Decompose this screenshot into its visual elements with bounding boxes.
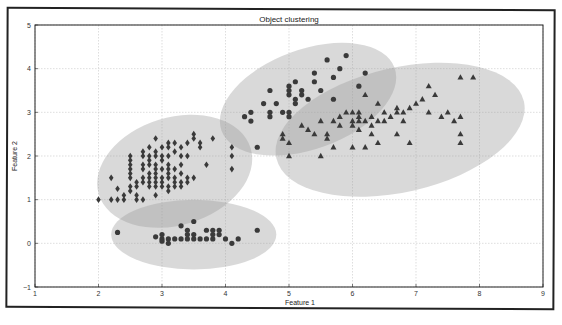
y-tick-label: 4 bbox=[27, 65, 31, 72]
circle-marker bbox=[293, 101, 298, 106]
x-tick-label: 8 bbox=[478, 290, 482, 297]
circle-marker bbox=[191, 219, 196, 224]
x-axis-ticks: 123456789 bbox=[33, 284, 545, 297]
x-tick-label: 5 bbox=[287, 290, 291, 297]
circle-marker bbox=[255, 145, 260, 150]
scatter-chart: 123456789 −1012345 Object clustering Fea… bbox=[0, 0, 562, 325]
y-axis-ticks: −1012345 bbox=[23, 22, 38, 291]
circle-marker bbox=[210, 228, 215, 233]
circle-marker bbox=[274, 101, 279, 106]
circle-marker bbox=[159, 239, 164, 244]
circle-marker bbox=[312, 70, 317, 75]
circle-marker bbox=[318, 88, 323, 93]
y-tick-label: 5 bbox=[27, 22, 31, 29]
y-axis-label: Feature 2 bbox=[11, 141, 18, 171]
circle-marker bbox=[261, 101, 266, 106]
x-tick-label: 3 bbox=[160, 290, 164, 297]
circle-marker bbox=[344, 53, 349, 58]
y-tick-label: 0 bbox=[27, 240, 31, 247]
circle-marker bbox=[331, 75, 336, 80]
circle-marker bbox=[267, 88, 272, 93]
x-tick-label: 2 bbox=[97, 290, 101, 297]
circle-marker bbox=[236, 236, 241, 241]
circle-marker bbox=[312, 79, 317, 84]
circle-marker bbox=[305, 97, 310, 102]
y-tick-label: −1 bbox=[23, 284, 31, 291]
circle-marker bbox=[223, 236, 228, 241]
x-tick-label: 6 bbox=[351, 290, 355, 297]
circle-marker bbox=[172, 236, 177, 241]
circle-marker bbox=[248, 118, 253, 123]
circle-marker bbox=[178, 223, 183, 228]
x-tick-label: 7 bbox=[414, 290, 418, 297]
circle-marker bbox=[356, 84, 361, 89]
circle-marker bbox=[191, 232, 196, 237]
circle-marker bbox=[178, 236, 183, 241]
circle-marker bbox=[286, 114, 291, 119]
circle-marker bbox=[299, 88, 304, 93]
circle-marker bbox=[115, 230, 120, 235]
circle-marker bbox=[159, 232, 164, 237]
circle-marker bbox=[325, 57, 330, 62]
circle-marker bbox=[166, 241, 171, 246]
circle-marker bbox=[286, 88, 291, 93]
circle-marker bbox=[280, 110, 285, 115]
circle-marker bbox=[204, 228, 209, 233]
circle-marker bbox=[242, 114, 247, 119]
circle-marker bbox=[198, 236, 203, 241]
x-axis-label: Feature 1 bbox=[285, 299, 315, 306]
chart-title: Object clustering bbox=[259, 15, 319, 24]
circle-marker bbox=[248, 110, 253, 115]
circle-marker bbox=[267, 114, 272, 119]
circle-marker bbox=[331, 97, 336, 102]
circle-marker bbox=[363, 70, 368, 75]
circle-marker bbox=[204, 236, 209, 241]
circle-marker bbox=[255, 228, 260, 233]
cluster-ellipses bbox=[83, 21, 538, 269]
y-tick-label: 3 bbox=[27, 109, 31, 116]
x-tick-label: 1 bbox=[33, 290, 37, 297]
y-tick-label: 2 bbox=[27, 153, 31, 160]
circle-marker bbox=[153, 234, 158, 239]
y-tick-label: 1 bbox=[27, 196, 31, 203]
circle-marker bbox=[217, 228, 222, 233]
circle-marker bbox=[229, 241, 234, 246]
circle-marker bbox=[293, 79, 298, 84]
x-tick-label: 9 bbox=[541, 290, 545, 297]
x-tick-label: 4 bbox=[224, 290, 228, 297]
circle-marker bbox=[185, 232, 190, 237]
circle-marker bbox=[337, 66, 342, 71]
